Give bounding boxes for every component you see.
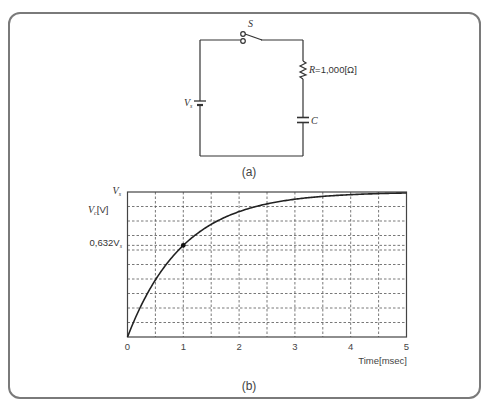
capacitor-label: C	[311, 115, 318, 126]
y-axis-label: Vc[V]	[88, 204, 108, 216]
y-top-label: Vs	[113, 185, 122, 197]
chart-grid	[128, 192, 407, 337]
x-tick-label: 4	[348, 341, 353, 352]
x-tick-label: 5	[404, 341, 409, 352]
x-axis-label: Time[msec]	[358, 355, 407, 366]
marker-value-label: 0,632Vs	[90, 237, 123, 249]
circuit-diagram	[194, 32, 309, 156]
switch-contact-upper	[241, 32, 246, 37]
switch-label: S	[248, 18, 253, 29]
tau-marker-dot	[181, 243, 186, 248]
x-tick-label: 1	[181, 341, 186, 352]
chart	[128, 192, 407, 337]
x-tick-labels: 012345	[125, 341, 409, 352]
caption-a: (a)	[242, 165, 257, 179]
switch-contact-lower	[241, 39, 246, 44]
x-tick-label: 0	[125, 341, 130, 352]
caption-b: (b)	[242, 379, 257, 393]
x-tick-label: 2	[236, 341, 241, 352]
resistor-label: R=1,000[Ω]	[308, 64, 357, 75]
source-label: Vs	[184, 97, 193, 109]
switch-blade	[245, 34, 262, 40]
resistor-icon	[300, 61, 306, 79]
figure-canvas: S Vs R=1,000[Ω] C (a) Vs Vc[V] 0,632Vs 0…	[0, 0, 497, 419]
x-tick-label: 3	[292, 341, 297, 352]
